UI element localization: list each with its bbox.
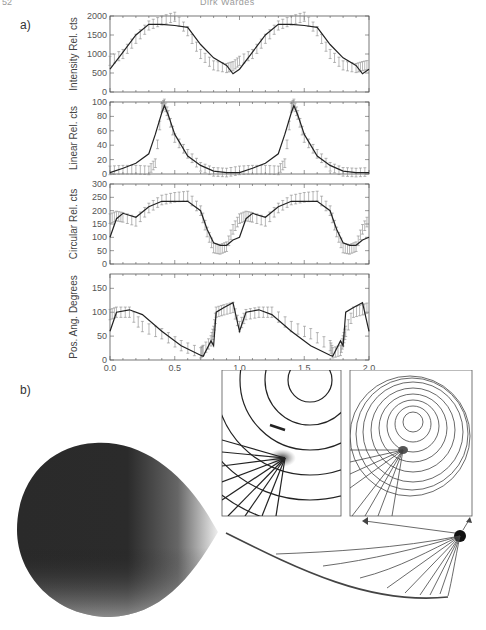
svg-text:0: 0 xyxy=(102,169,107,179)
svg-text:100: 100 xyxy=(92,232,107,242)
svg-text:40: 40 xyxy=(97,140,107,150)
svg-text:Intensity Rel. cts: Intensity Rel. cts xyxy=(68,17,79,90)
panel-a-label: a) xyxy=(20,18,31,32)
svg-text:0: 0 xyxy=(102,259,107,269)
trajectory-diagram xyxy=(226,517,472,598)
svg-text:150: 150 xyxy=(92,283,107,293)
panel-a-charts: 0500100015002000Intensity Rel. cts020406… xyxy=(60,8,380,378)
svg-text:0: 0 xyxy=(102,87,107,97)
svg-text:Circular Rel. cts: Circular Rel. cts xyxy=(68,189,79,260)
svg-text:200: 200 xyxy=(92,206,107,216)
svg-text:Linear Rel. cts: Linear Rel. cts xyxy=(68,106,79,170)
svg-text:2000: 2000 xyxy=(87,11,107,21)
svg-text:1500: 1500 xyxy=(87,30,107,40)
arrow-to-left-inset xyxy=(365,521,455,533)
svg-text:50: 50 xyxy=(97,331,107,341)
svg-text:50: 50 xyxy=(97,246,107,256)
svg-text:1000: 1000 xyxy=(87,49,107,59)
accretion-spot-map xyxy=(17,443,218,617)
panel-b-illustration xyxy=(0,370,486,630)
page-number: 52 xyxy=(2,0,12,7)
svg-text:20: 20 xyxy=(97,155,107,165)
inset-right-field-lines xyxy=(350,370,472,516)
svg-text:60: 60 xyxy=(97,126,107,136)
running-head: Dirk Wardes xyxy=(200,0,255,7)
svg-text:250: 250 xyxy=(92,192,107,202)
chart-panel-0: 0500100015002000Intensity Rel. cts xyxy=(68,11,369,97)
svg-text:100: 100 xyxy=(92,307,107,317)
svg-text:150: 150 xyxy=(92,219,107,229)
chart-panel-2: 050100150200250300Circular Rel. cts xyxy=(68,179,369,269)
svg-text:80: 80 xyxy=(97,111,107,121)
svg-text:300: 300 xyxy=(92,179,107,189)
svg-text:Pos. Ang. Degrees: Pos. Ang. Degrees xyxy=(68,275,79,358)
chart-panel-3: 050100150Pos. Ang. Degrees0.00.51.01.52.… xyxy=(68,274,375,378)
svg-text:100: 100 xyxy=(92,97,107,107)
svg-text:500: 500 xyxy=(92,68,107,78)
chart-panel-1: 020406080100Linear Rel. cts xyxy=(68,97,369,179)
